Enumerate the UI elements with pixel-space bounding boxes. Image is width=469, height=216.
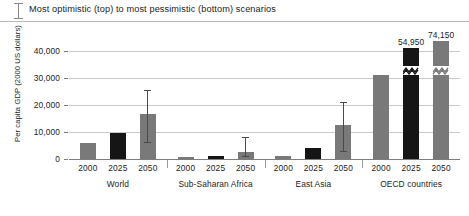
- bar-body: [110, 133, 126, 159]
- bar: [373, 75, 389, 159]
- legend-label: Most optimistic (top) to most pessimisti…: [29, 4, 276, 14]
- y-tick-label: 30,000: [14, 73, 60, 83]
- x-tick-label: 2050: [226, 163, 266, 173]
- y-tick-mark: [64, 132, 68, 133]
- bar: [208, 156, 224, 159]
- chart-root: Most optimistic (top) to most pessimisti…: [0, 0, 469, 216]
- y-tick-mark: [64, 78, 68, 79]
- bar-body: [178, 157, 194, 159]
- y-tick-label: 40,000: [14, 46, 60, 56]
- axis-break-marker: [403, 61, 419, 70]
- axis-break-marker: [433, 61, 449, 70]
- group-separator: [167, 160, 168, 168]
- bar-body: [208, 156, 224, 159]
- y-tick-mark: [64, 159, 68, 160]
- bar-body: [275, 156, 291, 160]
- error-bar-icon: [14, 3, 23, 19]
- bar: [433, 41, 449, 159]
- bar-body: [305, 148, 321, 159]
- group-separator: [265, 160, 266, 168]
- y-tick-label: 20,000: [14, 100, 60, 110]
- x-tick-label: 2050: [421, 163, 461, 173]
- y-tick-label: 0: [14, 154, 60, 164]
- error-bar: [144, 90, 151, 143]
- gridline: [69, 78, 460, 79]
- chart-legend: Most optimistic (top) to most pessimisti…: [0, 0, 469, 21]
- error-bar: [242, 137, 249, 157]
- bar: [110, 133, 126, 159]
- bar-body: [80, 143, 96, 159]
- y-tick-label: 10,000: [14, 127, 60, 137]
- gridline: [69, 51, 460, 52]
- legend-divider: [0, 21, 469, 22]
- bar: [403, 48, 419, 159]
- y-tick-mark: [64, 105, 68, 106]
- bar: [305, 148, 321, 159]
- bar-body: [373, 75, 389, 159]
- gridline: [69, 105, 460, 106]
- bar: [80, 143, 96, 159]
- bar: [178, 157, 194, 159]
- x-tick-label: 2050: [128, 163, 168, 173]
- y-tick-mark: [64, 51, 68, 52]
- bar: [275, 156, 291, 160]
- x-tick-label: 2050: [323, 163, 363, 173]
- bar-value-label: 74,150: [418, 30, 464, 40]
- x-group-label: OECD countries: [351, 179, 469, 189]
- group-separator: [362, 160, 363, 168]
- bar-body: [433, 41, 449, 159]
- gridline: [69, 132, 460, 133]
- plot-area: 54,95074,150: [69, 30, 460, 159]
- x-axis: 2000202520502000202520502000202520502000…: [69, 160, 460, 200]
- error-bar: [340, 102, 347, 151]
